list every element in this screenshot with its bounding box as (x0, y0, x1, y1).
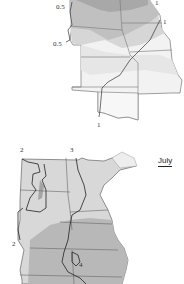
contour-label: 3 (70, 146, 74, 154)
contour-label: 1 (97, 121, 101, 129)
top-map: 0.5 1 1 0.5 1 (0, 0, 184, 140)
month-label: July (158, 157, 172, 167)
bottom-map: 2 3 2 4 (0, 142, 184, 284)
contour-label: 4 (79, 261, 83, 269)
contour-label: 0.5 (56, 3, 65, 11)
contour-label: 1 (163, 18, 167, 26)
contour-label: 0.5 (53, 40, 62, 48)
contour-label: 1 (155, 0, 159, 7)
contour-label: 2 (20, 146, 24, 154)
contour-label: 2 (12, 240, 16, 248)
